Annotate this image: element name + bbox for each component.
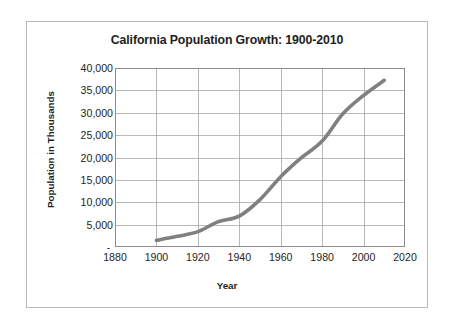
x-axis-title: Year	[27, 280, 427, 291]
plot-area	[115, 68, 405, 247]
x-tick-label: 1960	[258, 251, 304, 263]
x-tick-label: 1900	[133, 251, 179, 263]
chart-plot-svg	[115, 68, 405, 247]
x-tick-label: 2000	[341, 251, 387, 263]
x-tick-label: 1920	[175, 251, 221, 263]
y-tick-label: 40,000	[39, 63, 113, 74]
y-tick-label: 20,000	[39, 152, 113, 163]
x-tick-label: 2020	[382, 251, 428, 263]
y-tick-label: 35,000	[39, 85, 113, 96]
y-tick-label: 30,000	[39, 107, 113, 118]
series-line-california-population	[156, 80, 384, 240]
chart-figure: California Population Growth: 1900-2010 …	[26, 21, 428, 308]
y-tick-label: 15,000	[39, 174, 113, 185]
x-axis-tick-labels: 18801900192019401960198020002020	[27, 251, 429, 267]
y-tick-label: 5,000	[39, 219, 113, 230]
y-tick-label: 10,000	[39, 197, 113, 208]
x-tick-label: 1940	[216, 251, 262, 263]
x-tick-label: 1880	[92, 251, 138, 263]
y-tick-label: 25,000	[39, 130, 113, 141]
chart-title: California Population Growth: 1900-2010	[27, 33, 427, 47]
y-axis-tick-labels: 40,00035,00030,00025,00020,00015,00010,0…	[39, 68, 113, 247]
x-tick-label: 1980	[299, 251, 345, 263]
